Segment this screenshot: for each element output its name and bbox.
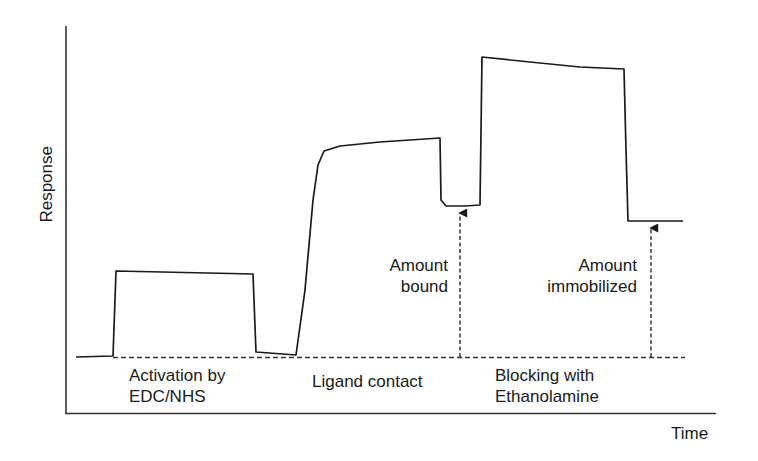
phase-label-activation-line1: Activation by (129, 365, 225, 386)
phase-label-activation-line2: EDC/NHS (129, 386, 225, 407)
annotation-amount-immobilized-line1: Amount (520, 255, 637, 276)
phase-label-blocking-line1: Blocking with (495, 365, 599, 386)
annotation-amount-bound-line1: Amount (356, 255, 448, 276)
phase-label-ligand-contact: Ligand contact (312, 371, 423, 392)
phase-label-activation: Activation by EDC/NHS (129, 365, 225, 407)
annotation-amount-bound: Amount bound (356, 255, 448, 297)
y-axis-label: Response (36, 146, 57, 223)
annotation-amount-immobilized-line2: immobilized (520, 276, 637, 297)
x-axis-label: Time (671, 423, 708, 444)
sensorgram-curve (76, 57, 683, 357)
phase-label-blocking-line2: Ethanolamine (495, 386, 599, 407)
phase-label-blocking: Blocking with Ethanolamine (495, 365, 599, 407)
phase-label-ligand-contact-line1: Ligand contact (312, 371, 423, 392)
annotation-amount-bound-line2: bound (356, 276, 448, 297)
annotation-amount-immobilized: Amount immobilized (520, 255, 637, 297)
